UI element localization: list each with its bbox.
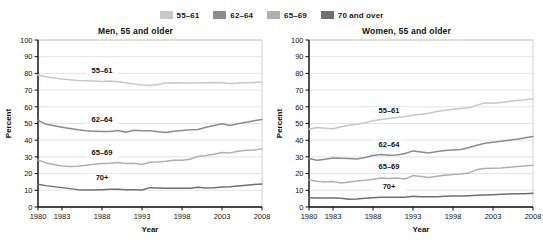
x-axis-title: Year bbox=[413, 225, 430, 234]
chart-panel-men: Men, 55 and older 0102030405060708090100… bbox=[0, 26, 271, 248]
y-axis-tick-label: 10 bbox=[24, 186, 32, 195]
x-axis-tick-label: 2008 bbox=[525, 212, 542, 221]
series-label: 62–64 bbox=[92, 115, 114, 124]
y-axis-tick-label: 30 bbox=[24, 153, 32, 162]
x-axis-tick-label: 1983 bbox=[325, 212, 342, 221]
series-label: 70+ bbox=[383, 182, 396, 191]
y-axis-tick-label: 50 bbox=[24, 119, 32, 128]
legend-item: 62–64 bbox=[213, 11, 253, 20]
y-axis-tick-label: 40 bbox=[24, 136, 32, 145]
x-axis-tick-label: 1998 bbox=[174, 212, 191, 221]
x-axis-tick-label: 2003 bbox=[214, 212, 231, 221]
series-label: 55–61 bbox=[92, 66, 113, 75]
y-axis-tick-label: 90 bbox=[295, 52, 303, 61]
legend-item-label: 65–69 bbox=[284, 11, 307, 20]
y-axis-tick-label: 30 bbox=[295, 153, 303, 162]
legend-item: 55–61 bbox=[160, 11, 200, 20]
legend-item-label: 70 and over bbox=[338, 11, 384, 20]
y-axis-tick-label: 90 bbox=[24, 52, 32, 61]
y-axis-tick-label: 80 bbox=[24, 69, 32, 78]
legend-swatch-icon bbox=[160, 11, 173, 19]
series-label: 70+ bbox=[96, 173, 109, 182]
series-label: 65–69 bbox=[379, 162, 400, 171]
y-axis-tick-label: 0 bbox=[299, 203, 303, 212]
series-label: 55–61 bbox=[379, 106, 400, 115]
chart-legend: 55–6162–6465–6970 and over bbox=[0, 8, 543, 22]
y-axis-tick-label: 70 bbox=[24, 86, 32, 95]
x-axis-tick-label: 2003 bbox=[485, 212, 502, 221]
x-axis-tick-label: 1993 bbox=[134, 212, 151, 221]
y-axis-title: Percent bbox=[4, 108, 13, 138]
y-axis-tick-label: 10 bbox=[295, 186, 303, 195]
x-axis-tick-label: 2008 bbox=[254, 212, 271, 221]
x-axis-tick-label: 1983 bbox=[54, 212, 71, 221]
y-axis-tick-label: 50 bbox=[295, 119, 303, 128]
series-label: 62–64 bbox=[379, 140, 401, 149]
x-axis-tick-label: 1998 bbox=[445, 212, 462, 221]
x-axis-tick-label: 1980 bbox=[30, 212, 47, 221]
legend-item: 70 and over bbox=[321, 11, 384, 20]
y-axis-tick-label: 20 bbox=[295, 169, 303, 178]
legend-item: 65–69 bbox=[267, 11, 307, 20]
x-axis-tick-label: 1980 bbox=[301, 212, 318, 221]
y-axis-tick-label: 100 bbox=[20, 36, 33, 45]
chart-panel-women: Women, 55 and older 01020304050607080901… bbox=[271, 26, 542, 248]
y-axis-tick-label: 100 bbox=[291, 36, 304, 45]
series-label: 65–69 bbox=[92, 148, 113, 157]
x-axis-tick-label: 1988 bbox=[94, 212, 111, 221]
y-axis-tick-label: 40 bbox=[295, 136, 303, 145]
y-axis-tick-label: 70 bbox=[295, 86, 303, 95]
x-axis-title: Year bbox=[142, 225, 159, 234]
x-axis-tick-label: 1993 bbox=[405, 212, 422, 221]
y-axis-tick-label: 60 bbox=[295, 103, 303, 112]
legend-swatch-icon bbox=[213, 11, 226, 19]
legend-item-label: 62–64 bbox=[230, 11, 253, 20]
y-axis-tick-label: 80 bbox=[295, 69, 303, 78]
y-axis-tick-label: 0 bbox=[28, 203, 32, 212]
legend-swatch-icon bbox=[321, 11, 334, 19]
legend-swatch-icon bbox=[267, 11, 280, 19]
y-axis-title: Percent bbox=[275, 108, 284, 138]
legend-item-label: 55–61 bbox=[177, 11, 200, 20]
y-axis-tick-label: 60 bbox=[24, 103, 32, 112]
line-chart-men: 0102030405060708090100198019831988199319… bbox=[0, 26, 271, 248]
x-axis-tick-label: 1988 bbox=[365, 212, 382, 221]
line-chart-women: 0102030405060708090100198019831988199319… bbox=[271, 26, 542, 248]
y-axis-tick-label: 20 bbox=[24, 169, 32, 178]
